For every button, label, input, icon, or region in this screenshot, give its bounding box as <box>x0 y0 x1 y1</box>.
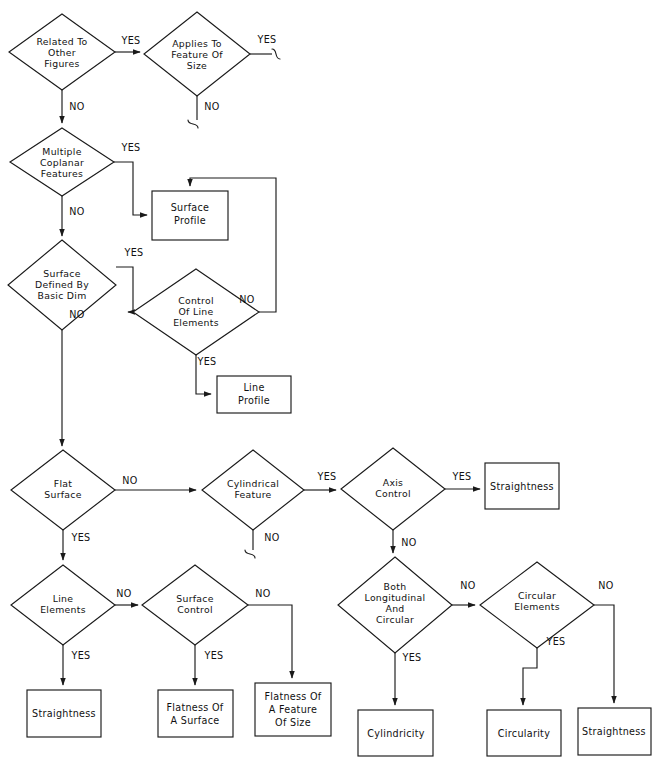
decision-cylindrical-feature[interactable]: Cylindrical Feature <box>202 450 304 530</box>
edge-label-applies-yes: YES <box>257 34 277 45</box>
box-shape <box>158 690 233 737</box>
decision-label-line-3: Size <box>187 60 207 71</box>
decision-label-line-1: Cylindrical <box>227 478 279 489</box>
decision-label-line-2: Elements <box>40 604 86 615</box>
terminal-label-line-1: Straightness <box>490 481 554 492</box>
edge-label-surface-control-no: NO <box>255 588 270 599</box>
edge-label-line-elements-no: NO <box>116 588 131 599</box>
decision-label-line-2: Feature Of <box>171 49 223 60</box>
decision-label-line-2: Coplanar <box>40 157 84 168</box>
terminal-label-line-2: A Feature <box>269 704 318 715</box>
decision-label-line-2: Elements <box>514 601 560 612</box>
edge-label-flat-surface-no: NO <box>122 475 137 486</box>
terminal-surface-profile[interactable]: Surface Profile <box>152 191 228 240</box>
edge-label-related-no: NO <box>69 101 84 112</box>
edge-label-axis-control-yes: YES <box>452 471 472 482</box>
decision-label-line-1: Both <box>384 581 407 592</box>
decision-label-line-2: Other <box>48 47 76 58</box>
edge-label-control-line-yes: YES <box>197 356 217 367</box>
edge-label-related-yes: YES <box>121 35 141 46</box>
decision-multiple-coplanar-features[interactable]: Multiple Coplanar Features <box>10 128 114 196</box>
terminal-flatness-of-a-feature-of-size[interactable]: Flatness Of A Feature Of Size <box>255 683 331 736</box>
decision-line-elements[interactable]: Line Elements <box>11 565 115 645</box>
decision-related-to-other-figures[interactable]: Related To Other Figures <box>9 14 115 90</box>
decision-both-longitudinal-and-circular[interactable]: Both Longitudinal And Circular <box>338 557 452 653</box>
terminal-circularity[interactable]: Circularity <box>487 710 561 756</box>
decision-label-line-2: Feature <box>234 489 271 500</box>
edge-coplanar-yes <box>114 162 147 215</box>
edge-label-basic-dim-yes: YES <box>124 247 144 258</box>
edge-circular-elements-yes <box>523 648 537 705</box>
terminal-nodes: Surface Profile Line Profile Straightnes… <box>27 191 651 756</box>
decision-label-line-1: Applies To <box>172 38 222 49</box>
terminal-label-line-2: A Surface <box>171 715 220 726</box>
edge-label-flat-surface-yes: YES <box>71 532 91 543</box>
flowchart-canvas: Related To Other Figures Applies To Feat… <box>0 0 660 772</box>
edge-basic-dim-yes <box>116 267 133 312</box>
decision-label-line-1: Line <box>53 593 74 604</box>
decision-label-line-2: Of Line <box>178 306 213 317</box>
decision-label-line-2: Defined By <box>35 279 89 290</box>
decision-label-line-3: Figures <box>44 58 79 69</box>
edge-label-circular-elements-yes: YES <box>546 636 566 647</box>
decision-axis-control[interactable]: Axis Control <box>341 448 445 530</box>
decision-label-line-2: Longitudinal <box>365 592 426 603</box>
terminal-straightness-axis[interactable]: Straightness <box>485 463 559 509</box>
decision-label-line-1: Related To <box>36 36 87 47</box>
edge-label-both-long-circ-yes: YES <box>402 652 422 663</box>
decision-applies-to-feature-of-size[interactable]: Applies To Feature Of Size <box>144 12 250 96</box>
terminal-label-line-1: Circularity <box>498 728 550 739</box>
decision-label-line-3: Basic Dim <box>37 290 86 301</box>
decision-label-line-1: Circular <box>518 590 556 601</box>
terminal-straightness-line-elements[interactable]: Straightness <box>27 690 101 737</box>
decision-surface-defined-by-basic-dim[interactable]: Surface Defined By Basic Dim <box>8 240 116 330</box>
decision-label-line-3: Elements <box>173 317 219 328</box>
edge-label-basic-dim-no: NO <box>69 309 84 320</box>
edge-label-axis-control-no: NO <box>401 537 416 548</box>
decision-label-line-1: Multiple <box>42 146 81 157</box>
break-symbol-applies-yes <box>272 49 280 59</box>
decision-label-line-2: Control <box>375 488 411 499</box>
decision-label-line-1: Control <box>178 295 214 306</box>
edge-label-both-long-circ-no: NO <box>460 580 475 591</box>
edge-label-circular-elements-no: NO <box>598 580 613 591</box>
decision-nodes: Related To Other Figures Applies To Feat… <box>8 12 594 653</box>
terminal-label-line-1: Flatness Of <box>264 691 321 702</box>
terminal-straightness-circular[interactable]: Straightness <box>578 708 651 755</box>
terminal-label-line-1: Cylindricity <box>367 728 424 739</box>
decision-flat-surface[interactable]: Flat Surface <box>11 450 115 530</box>
edge-label-cylindrical-no: NO <box>264 532 279 543</box>
decision-surface-control[interactable]: Surface Control <box>142 565 248 645</box>
decision-label-line-2: Control <box>177 604 213 615</box>
decision-label-line-1: Axis <box>383 477 404 488</box>
decision-control-of-line-elements[interactable]: Control Of Line Elements <box>133 269 259 355</box>
decision-label-line-1: Flat <box>54 478 73 489</box>
edge-label-applies-no: NO <box>204 101 219 112</box>
decision-label-line-3: Features <box>41 168 83 179</box>
terminal-label-line-1: Straightness <box>582 726 646 737</box>
terminal-label-line-3: Of Size <box>275 717 311 728</box>
edge-label-coplanar-no: NO <box>69 206 84 217</box>
decision-label-line-3: And <box>385 603 404 614</box>
terminal-label-line-1: Surface <box>171 202 210 213</box>
terminal-flatness-of-a-surface[interactable]: Flatness Of A Surface <box>158 690 233 737</box>
terminal-cylindricity[interactable]: Cylindricity <box>358 710 433 756</box>
terminal-label-line-1: Straightness <box>32 708 96 719</box>
edge-label-coplanar-yes: YES <box>121 142 141 153</box>
terminal-label-line-2: Profile <box>174 215 206 226</box>
decision-label-line-1: Surface <box>176 593 214 604</box>
edge-label-line-elements-yes: YES <box>71 650 91 661</box>
edge-surface-control-no <box>248 605 292 678</box>
terminal-label-line-1: Flatness Of <box>166 702 223 713</box>
decision-label-line-1: Surface <box>43 268 81 279</box>
decision-circular-elements[interactable]: Circular Elements <box>480 562 594 648</box>
terminal-line-profile[interactable]: Line Profile <box>217 376 291 413</box>
edge-circular-elements-no <box>594 605 614 703</box>
break-symbol-applies-no <box>188 120 198 128</box>
edge-label-control-line-no: NO <box>239 294 254 305</box>
edge-label-cylindrical-yes: YES <box>317 471 337 482</box>
edge-label-surface-control-yes: YES <box>204 650 224 661</box>
decision-label-line-2: Surface <box>44 489 82 500</box>
break-symbol-cylindrical-no <box>245 550 255 558</box>
decision-label-line-4: Circular <box>376 614 414 625</box>
